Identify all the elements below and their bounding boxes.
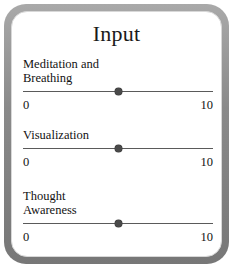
slider-max-label: 10 — [201, 98, 214, 112]
slider-min-label: 0 — [23, 230, 29, 244]
slider-scale: 0 10 — [23, 98, 213, 113]
slider-label: Visualization — [23, 128, 213, 142]
slider-label: Thought Awareness — [23, 189, 213, 217]
slider-thought-awareness[interactable] — [23, 219, 213, 229]
slider-group-meditation-and-breathing: Meditation and Breathing 0 10 — [23, 57, 213, 113]
input-panel-frame: Input Meditation and Breathing 0 10 Visu… — [4, 4, 229, 264]
slider-max-label: 10 — [201, 155, 214, 169]
slider-scale: 0 10 — [23, 230, 213, 245]
input-panel: Input Meditation and Breathing 0 10 Visu… — [11, 11, 222, 257]
page-title: Input — [12, 21, 221, 47]
slider-thumb[interactable] — [115, 220, 122, 227]
slider-min-label: 0 — [23, 98, 29, 112]
slider-group-thought-awareness: Thought Awareness 0 10 — [23, 189, 213, 245]
slider-scale: 0 10 — [23, 155, 213, 170]
slider-meditation-and-breathing[interactable] — [23, 87, 213, 97]
slider-visualization[interactable] — [23, 144, 213, 154]
slider-thumb[interactable] — [115, 88, 122, 95]
slider-label: Meditation and Breathing — [23, 57, 213, 85]
slider-max-label: 10 — [201, 230, 214, 244]
slider-thumb[interactable] — [115, 145, 122, 152]
slider-min-label: 0 — [23, 155, 29, 169]
slider-group-visualization: Visualization 0 10 — [23, 128, 213, 170]
